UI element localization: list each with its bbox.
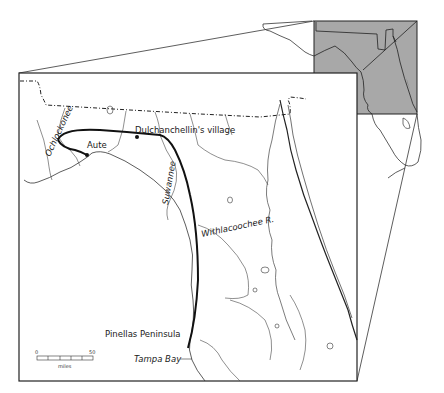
map-canvas: Ochlockonee Aute Dulchanchellin's villag… — [0, 0, 444, 393]
main-map: Ochlockonee Aute Dulchanchellin's villag… — [19, 73, 357, 381]
dulchanchellin-label: Dulchanchellin's village — [135, 125, 235, 135]
connector-line-top — [19, 21, 314, 73]
tampa-bay-label: Tampa Bay — [134, 354, 182, 364]
pinellas-label: Pinellas Peninsula — [105, 329, 181, 339]
scale-min: 0 — [35, 349, 38, 355]
scale-max: 50 — [89, 349, 95, 355]
connector-line-bottom — [357, 114, 417, 381]
aute-marker — [85, 153, 89, 157]
scale-unit: miles — [58, 363, 72, 369]
aute-label: Aute — [87, 140, 107, 150]
dulchanchellin-marker — [135, 135, 139, 139]
